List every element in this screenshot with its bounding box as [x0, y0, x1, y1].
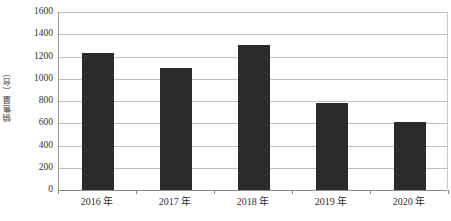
- x-axis-tick-labels: 2016 年2017 年2018 年2019 年2020 年: [58, 196, 448, 218]
- y-axis-tick-label: 1000: [34, 74, 53, 84]
- x-axis-tick-label: 2018 年: [237, 196, 270, 208]
- y-axis-tick-label: 400: [39, 141, 53, 151]
- x-axis-tick: [214, 190, 215, 194]
- y-axis-title: 销售量（台）: [0, 0, 16, 190]
- y-axis-tick-label: 1600: [34, 7, 53, 17]
- x-axis-ticks: [58, 190, 448, 195]
- y-axis-tick-label: 1200: [34, 52, 53, 62]
- x-axis-tick: [136, 190, 137, 194]
- x-axis-tick-label: 2016 年: [81, 196, 114, 208]
- y-axis-tick-label: 800: [39, 96, 53, 106]
- x-axis-tick: [292, 190, 293, 194]
- bar-chart: 销售量（台） 02004006008001000120014001600 201…: [0, 0, 451, 221]
- y-axis-tick-label: 600: [39, 119, 53, 129]
- bar: [160, 68, 192, 190]
- y-axis-tick-label: 200: [39, 163, 53, 173]
- plot-area: [58, 12, 448, 190]
- x-axis-tick-label: 2020 年: [393, 196, 426, 208]
- bar: [82, 53, 114, 190]
- bar: [316, 103, 348, 190]
- y-axis-title-label: 销售量（台）: [4, 68, 13, 122]
- x-axis-tick: [370, 190, 371, 194]
- y-axis-tick-label: 0: [48, 185, 53, 195]
- x-axis-tick-label: 2019 年: [315, 196, 348, 208]
- y-axis-tick-labels: 02004006008001000120014001600: [16, 0, 56, 190]
- y-axis-tick-label: 1400: [34, 30, 53, 40]
- bar: [238, 45, 270, 190]
- x-axis-tick: [58, 190, 59, 194]
- x-axis-tick-label: 2017 年: [159, 196, 192, 208]
- bar: [394, 122, 426, 190]
- bars: [59, 12, 447, 190]
- x-axis-tick: [448, 190, 449, 194]
